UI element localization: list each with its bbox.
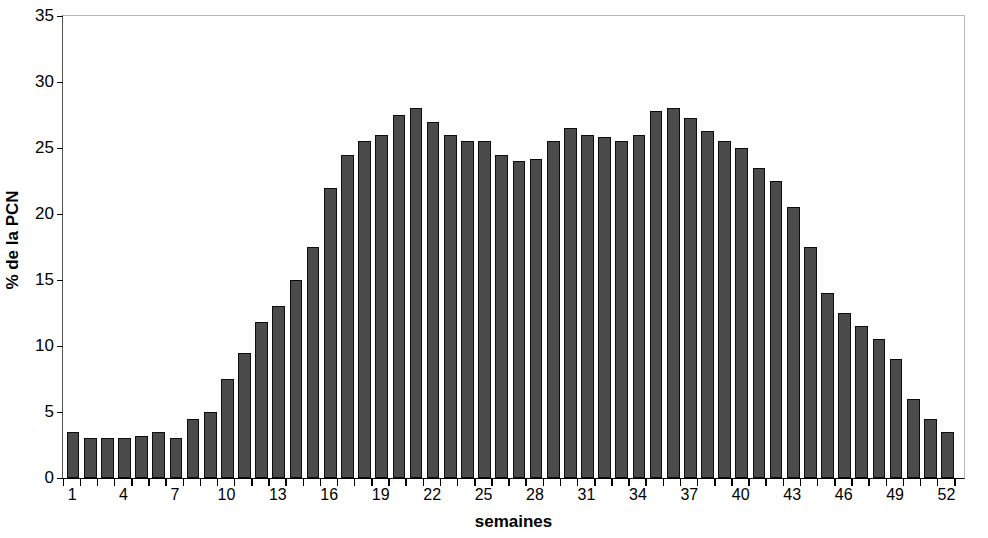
x-axis-tick-label: 4 xyxy=(119,486,128,504)
x-axis-tick-mark xyxy=(183,478,185,486)
bar xyxy=(735,148,748,478)
x-axis-tick-mark xyxy=(165,478,167,486)
x-axis-tick-label: 34 xyxy=(629,486,647,504)
x-axis-tick-mark xyxy=(954,478,956,486)
bar xyxy=(941,432,954,478)
x-axis-tick-mark xyxy=(131,478,133,486)
x-axis-tick-mark xyxy=(886,478,888,486)
x-axis-tick-mark xyxy=(80,478,82,486)
bar xyxy=(650,111,663,478)
bar xyxy=(444,135,457,478)
x-axis-tick-mark xyxy=(251,478,253,486)
x-axis-tick-mark xyxy=(851,478,853,486)
x-axis-tick-mark xyxy=(783,478,785,486)
bar xyxy=(495,155,508,478)
y-axis-tick-label: 15 xyxy=(24,271,54,288)
y-axis-tick-label: 35 xyxy=(24,7,54,24)
bar xyxy=(204,412,217,478)
y-axis-tick-label: 5 xyxy=(24,403,54,420)
x-axis-tick-mark xyxy=(817,478,819,486)
x-axis-tick-label: 46 xyxy=(835,486,853,504)
bar-chart: % de la PCN 05101520253035 1471013161922… xyxy=(0,0,988,538)
x-axis-tick-label: 16 xyxy=(320,486,338,504)
bar xyxy=(221,379,234,478)
x-axis-tick-mark xyxy=(697,478,699,486)
x-axis-tick-mark xyxy=(217,478,219,486)
bar xyxy=(478,141,491,478)
x-axis-tick-label: 19 xyxy=(372,486,390,504)
y-axis-tick-label: 0 xyxy=(24,469,54,486)
x-axis-tick-mark xyxy=(474,478,476,486)
y-axis-tick-label: 25 xyxy=(24,139,54,156)
bar xyxy=(513,161,526,478)
bar xyxy=(615,141,628,478)
x-axis-tick-mark xyxy=(63,478,65,486)
bar xyxy=(290,280,303,478)
bar xyxy=(238,353,251,478)
bar xyxy=(393,115,406,478)
bar xyxy=(564,128,577,478)
bar xyxy=(101,438,114,478)
x-axis-tick-mark xyxy=(457,478,459,486)
bar xyxy=(547,141,560,478)
bar xyxy=(118,438,131,478)
bar xyxy=(461,141,474,478)
bar xyxy=(787,207,800,478)
bar xyxy=(753,168,766,478)
x-axis-tick-label: 1 xyxy=(68,486,77,504)
x-axis-tick-mark xyxy=(525,478,527,486)
x-axis-tick-label: 31 xyxy=(578,486,596,504)
x-axis-tick-label: 22 xyxy=(423,486,441,504)
x-axis-tick-labels: 147101316192225283134374043464952 xyxy=(62,486,965,508)
bar xyxy=(84,438,97,478)
bar xyxy=(341,155,354,478)
x-axis-tick-mark xyxy=(714,478,716,486)
x-axis-tick-label: 52 xyxy=(938,486,956,504)
x-axis-tick-label: 40 xyxy=(732,486,750,504)
x-axis-tick-mark xyxy=(405,478,407,486)
x-axis-tick-mark xyxy=(320,478,322,486)
x-axis-tick-mark xyxy=(680,478,682,486)
bar xyxy=(187,419,200,478)
bar xyxy=(307,247,320,478)
bar xyxy=(410,108,423,478)
x-axis-tick-label: 10 xyxy=(217,486,235,504)
bar xyxy=(821,293,834,478)
x-axis-tick-mark xyxy=(731,478,733,486)
x-axis-tick-mark xyxy=(903,478,905,486)
x-axis-tick-mark xyxy=(577,478,579,486)
bar xyxy=(581,135,594,478)
x-axis-tick-label: 13 xyxy=(269,486,287,504)
bar xyxy=(838,313,851,478)
bar xyxy=(272,306,285,478)
x-axis-tick-label: 7 xyxy=(171,486,180,504)
x-axis-tick-mark xyxy=(114,478,116,486)
x-axis-tick-mark xyxy=(834,478,836,486)
x-axis-tick-mark xyxy=(423,478,425,486)
x-axis-tick-label: 25 xyxy=(475,486,493,504)
x-axis-tick-mark xyxy=(268,478,270,486)
bar xyxy=(427,122,440,478)
bar xyxy=(924,419,937,478)
bar xyxy=(684,118,697,478)
bar xyxy=(667,108,680,478)
bar xyxy=(598,137,611,478)
x-axis-tick-mark xyxy=(765,478,767,486)
x-axis-tick-mark xyxy=(508,478,510,486)
bar xyxy=(907,399,920,478)
x-axis-tick-mark xyxy=(285,478,287,486)
x-axis-tick-mark xyxy=(491,478,493,486)
bar xyxy=(770,181,783,478)
x-axis-tick-mark xyxy=(200,478,202,486)
bar xyxy=(718,141,731,478)
x-axis-tick-mark xyxy=(560,478,562,486)
y-axis-tick-label: 20 xyxy=(24,205,54,222)
x-axis-tick-label: 43 xyxy=(783,486,801,504)
x-axis-tick-mark xyxy=(371,478,373,486)
x-axis-tick-mark xyxy=(645,478,647,486)
x-axis-tick-mark xyxy=(628,478,630,486)
x-axis-tick-mark xyxy=(611,478,613,486)
bar xyxy=(358,141,371,478)
x-axis-tick-mark xyxy=(303,478,305,486)
bar xyxy=(855,326,868,478)
